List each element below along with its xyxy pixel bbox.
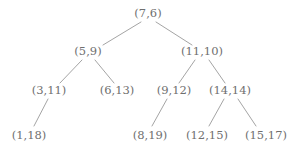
tree-diagram: (7,6)(5,9)(11,10)(3,11)(6,13)(9,12)(14,1… bbox=[0, 0, 296, 153]
tree-edge-n2-n6 bbox=[209, 60, 225, 83]
tree-node-n8: (8,19) bbox=[133, 130, 168, 142]
tree-node-n9: (12,15) bbox=[186, 130, 228, 142]
tree-node-n4: (6,13) bbox=[100, 85, 135, 97]
tree-node-n1: (5,9) bbox=[74, 46, 101, 58]
tree-node-n6: (14,14) bbox=[209, 85, 251, 97]
tree-node-n7: (1,18) bbox=[12, 130, 47, 142]
tree-node-n10: (15,17) bbox=[245, 130, 287, 142]
tree-edge-n1-n4 bbox=[95, 60, 114, 83]
tree-edge-n6-n10 bbox=[238, 99, 256, 126]
tree-node-n5: (9,12) bbox=[157, 85, 192, 97]
tree-edge-n5-n8 bbox=[152, 99, 167, 126]
tree-node-n3: (3,11) bbox=[32, 85, 67, 97]
tree-node-n2: (11,10) bbox=[181, 46, 223, 58]
tree-edge-n6-n9 bbox=[209, 99, 224, 126]
tree-edge-n3-n7 bbox=[34, 99, 48, 126]
tree-edge-n0-n2 bbox=[156, 22, 192, 45]
tree-edge-n0-n1 bbox=[103, 22, 141, 45]
tree-edge-n1-n3 bbox=[60, 60, 82, 83]
tree-edge-n2-n5 bbox=[179, 60, 195, 83]
tree-node-n0: (7,6) bbox=[134, 8, 161, 20]
